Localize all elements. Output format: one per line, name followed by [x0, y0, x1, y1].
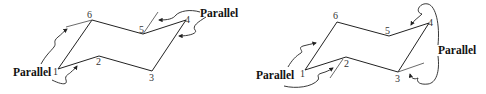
right-vertex-label-4: 4: [428, 17, 433, 28]
right-vertex-label-6: 6: [333, 10, 338, 21]
left-vertex-label-2: 2: [96, 56, 101, 67]
left-arrow-4: [179, 17, 206, 36]
left-arrow-1: [41, 29, 67, 64]
right-parallel-label-lower: Parallel: [256, 69, 294, 81]
right-extension-3: [398, 63, 424, 72]
right-parallel-label-side: Parallel: [438, 44, 476, 56]
chair-conformation-diagram: 1 2 3 4 5 6 Parallel Parallel 1 2 3 4 5 …: [0, 0, 486, 94]
left-arrow-3: [159, 11, 200, 20]
left-vertex-label-6: 6: [87, 9, 92, 20]
right-vertex-label-3: 3: [395, 73, 400, 84]
right-chair: 1 2 3 4 5 6 Parallel Parallel: [256, 4, 476, 88]
left-parallel-label-lower: Parallel: [13, 66, 51, 78]
left-extension-5: [143, 12, 158, 34]
left-chair: 1 2 3 4 5 6 Parallel Parallel: [13, 7, 238, 84]
right-vertex-label-2: 2: [344, 58, 349, 69]
left-vertex-label-3: 3: [149, 72, 154, 83]
left-ring-bonds: [58, 20, 186, 71]
left-vertex-label-1: 1: [53, 66, 58, 77]
right-arrow-4: [410, 56, 439, 84]
left-parallel-label-upper: Parallel: [200, 7, 238, 19]
left-vertex-label-5: 5: [139, 24, 144, 35]
left-vertex-label-4: 4: [185, 14, 190, 25]
right-arrow-1: [288, 43, 316, 67]
right-ring-bonds: [305, 22, 429, 72]
right-vertex-label-1: 1: [300, 68, 305, 79]
right-vertex-label-5: 5: [385, 25, 390, 36]
